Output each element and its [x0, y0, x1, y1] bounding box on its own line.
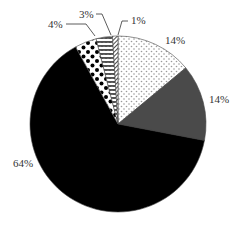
leader-line-4pct	[66, 24, 95, 36]
label-gray-slice: 14%	[209, 93, 229, 105]
label-hatch-slice: 1%	[131, 14, 146, 26]
leader-lines	[66, 14, 128, 36]
pie-chart: 14% 14% 64% 4% 3% 1%	[0, 0, 237, 225]
label-bigdot-slice: 4%	[48, 18, 63, 30]
label-black-slice: 64%	[13, 157, 33, 169]
label-zigzag-slice: 3%	[79, 8, 94, 20]
leader-line-1pct	[118, 21, 128, 35]
label-dotted-slice: 14%	[165, 34, 185, 46]
pie-slices	[30, 36, 206, 212]
leader-line-3pct	[96, 14, 111, 35]
